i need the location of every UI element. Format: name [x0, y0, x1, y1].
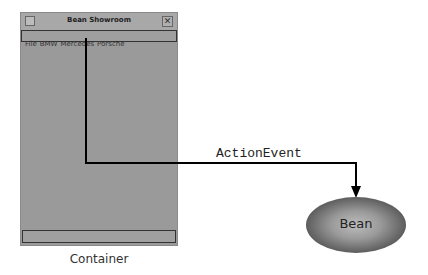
bean-ellipse: Bean: [306, 197, 406, 253]
action-event-label: ActionEvent: [216, 146, 302, 161]
bean-label: Bean: [306, 216, 406, 231]
